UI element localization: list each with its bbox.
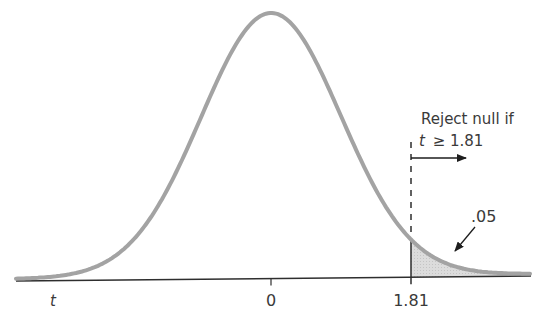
t-distribution-diagram: Reject null if t ≥ 1.81 .05 t 0 1.81: [0, 0, 543, 317]
axis-variable-label: t: [50, 292, 57, 310]
tick-label-zero: 0: [266, 291, 276, 310]
area-label: .05: [471, 207, 496, 226]
condition-inequality: ≥ 1.81: [433, 132, 484, 150]
area-pointer-arrow: [455, 227, 475, 251]
annotation-reject-null-if: Reject null if: [421, 110, 515, 128]
tick-label-critical: 1.81: [393, 291, 429, 310]
annotation-condition: t ≥ 1.81: [419, 132, 483, 150]
condition-variable-t: t: [419, 132, 426, 150]
x-axis-line: [16, 276, 531, 281]
